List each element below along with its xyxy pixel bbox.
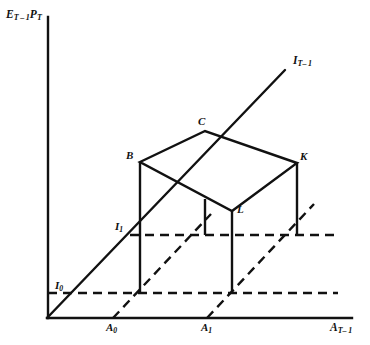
x-tick-label-a1: A1 bbox=[201, 322, 212, 334]
x-tick-label-a0: A0 bbox=[106, 322, 117, 334]
dashed-group bbox=[48, 204, 338, 318]
ray-it-minus-1 bbox=[47, 70, 285, 318]
diagram-canvas bbox=[0, 0, 370, 345]
box-top-face bbox=[140, 131, 297, 211]
ray-label-it-minus-1: IT– 1 bbox=[293, 55, 312, 68]
y-axis-label: ET – 1PT bbox=[6, 9, 42, 22]
level-label-i1: I1 bbox=[115, 221, 123, 233]
level-label-i0: I0 bbox=[55, 280, 63, 292]
box-group bbox=[140, 131, 297, 293]
point-label-b: B bbox=[126, 150, 133, 161]
point-label-k: K bbox=[300, 151, 307, 162]
x-axis-label: AT– 1 bbox=[330, 322, 352, 335]
point-label-c: C bbox=[198, 116, 205, 127]
ray-group bbox=[47, 70, 285, 318]
figure-container: ET – 1PT AT– 1 IT– 1 B C K L I1 I0 A0 A1 bbox=[0, 0, 370, 345]
point-label-l: L bbox=[237, 204, 244, 215]
depth-line-a0 bbox=[113, 214, 211, 318]
